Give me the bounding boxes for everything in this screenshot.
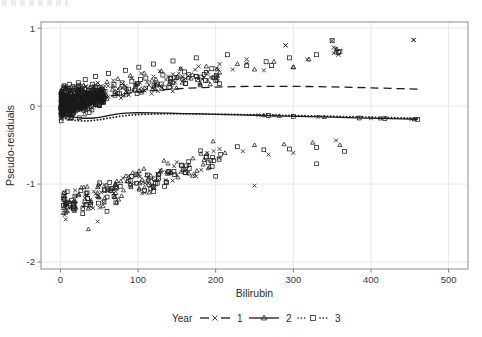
x-tick-label: 400 xyxy=(363,274,379,285)
x-tick-label: 0 xyxy=(58,274,63,285)
y-tick-label: -2 xyxy=(27,256,35,267)
legend-label: 2 xyxy=(286,313,292,324)
legend-entry-year-3[interactable]: 3 xyxy=(298,313,341,324)
x-tick-label: 300 xyxy=(285,274,301,285)
y-tick-label: 0 xyxy=(30,101,35,112)
pseudo-residuals-scatter-plot: 010020030040050010-1-2 BilirubinPseudo-r… xyxy=(0,0,482,337)
legend-label: 3 xyxy=(335,313,341,324)
y-axis-title: Pseudo-residuals xyxy=(4,105,16,186)
x-tick-label: 100 xyxy=(130,274,146,285)
grid-lines xyxy=(41,22,468,269)
legend-marker-cross-icon xyxy=(212,315,217,320)
y-tick-label: -1 xyxy=(27,178,35,189)
x-tick-label: 500 xyxy=(441,274,457,285)
legend-marker-square-icon xyxy=(310,315,315,320)
legend-entry-year-2[interactable]: 2 xyxy=(249,313,292,324)
legend-label: 1 xyxy=(237,313,243,324)
legend-title: Year xyxy=(172,313,193,324)
chart-figure: 010020030040050010-1-2 BilirubinPseudo-r… xyxy=(0,0,482,337)
y-tick-label: 1 xyxy=(30,23,35,34)
x-axis-title: Bilirubin xyxy=(236,287,274,299)
legend-entry-year-1[interactable]: 1 xyxy=(200,313,243,324)
legend: Year123 xyxy=(172,313,341,324)
x-tick-label: 200 xyxy=(208,274,224,285)
